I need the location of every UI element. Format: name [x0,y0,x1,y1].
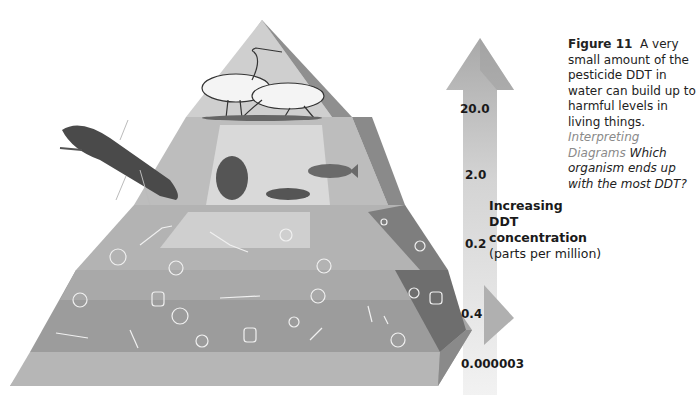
axis-title-line1: Increasing [489,198,601,214]
ddt-level-water: 0.000003 [461,357,524,371]
figure-label: Figure 11 [568,37,632,51]
ddt-axis-title: Increasing DDT concentration (parts per … [489,198,601,262]
food-pyramid [10,20,514,386]
ddt-level-birds: 20.0 [460,102,490,116]
axis-title-line3: concentration [489,230,601,246]
pyramid-tier-zooplankton [76,205,448,270]
ddt-level-producers: 0.4 [461,307,482,321]
axis-title-line2: DDT [489,214,601,230]
pyramid-tier-producers [30,270,466,352]
ddt-level-large-fish: 2.0 [465,168,486,182]
axis-units: (parts per million) [489,246,601,262]
ddt-level-zooplankton: 0.2 [465,237,486,251]
figure-caption: Figure 11 A very small amount of the pes… [568,37,697,192]
